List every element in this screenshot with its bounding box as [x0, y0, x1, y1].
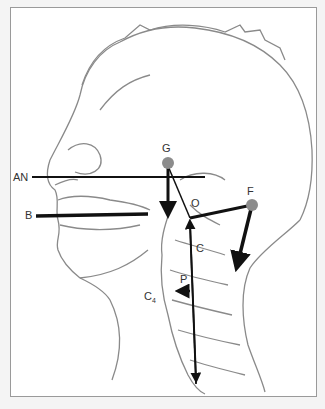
g-o-line [168, 166, 190, 218]
label-f: F [247, 186, 254, 197]
label-an: AN [13, 172, 28, 183]
force-vectors [32, 166, 252, 384]
head-spine-diagram [0, 0, 325, 409]
b-line [36, 214, 148, 216]
label-b: B [25, 210, 32, 221]
label-c4-main: C [144, 290, 152, 302]
label-g: G [162, 143, 171, 154]
label-o: O [191, 198, 200, 209]
label-c4: C4 [144, 291, 156, 304]
label-p: P [180, 274, 187, 285]
label-c: C [196, 243, 204, 254]
label-c4-sub: 4 [152, 297, 156, 304]
f-force-arrow [238, 205, 252, 262]
f-point [246, 199, 258, 211]
head-outline [48, 25, 313, 394]
g-point [162, 157, 174, 169]
